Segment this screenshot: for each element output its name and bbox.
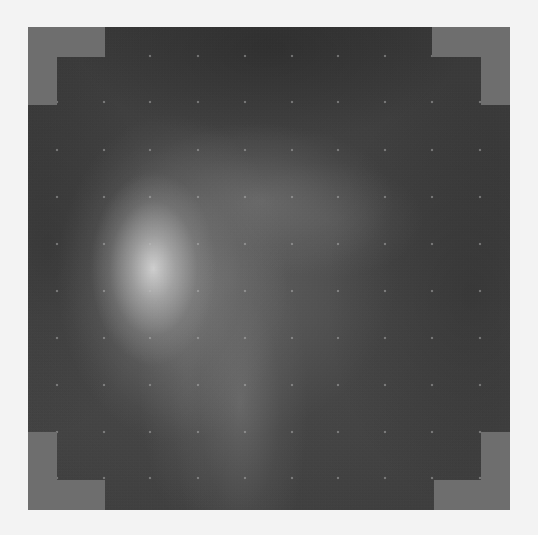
corner-mask-bottom-right-inner bbox=[481, 432, 510, 480]
corner-mask-top-left-inner bbox=[28, 57, 57, 105]
corner-mask-top-right-inner bbox=[481, 57, 510, 105]
corner-mask-top-left-outer bbox=[28, 27, 105, 57]
page-background bbox=[0, 0, 538, 535]
corner-mask-bottom-left-inner bbox=[28, 432, 57, 480]
intensity-map bbox=[28, 27, 510, 510]
corner-masks bbox=[28, 27, 510, 510]
corner-mask-top-right-outer bbox=[432, 27, 510, 57]
corner-mask-bottom-left-outer bbox=[28, 480, 105, 510]
corner-mask-bottom-right-outer bbox=[434, 480, 510, 510]
